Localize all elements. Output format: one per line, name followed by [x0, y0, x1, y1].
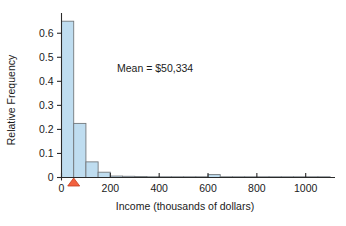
marker-layer	[68, 178, 80, 186]
y-axis-tick-label: 0.1	[39, 147, 54, 159]
mean-triangle-marker	[68, 178, 80, 186]
x-axis-tick-label: 600	[199, 182, 217, 194]
y-axis-tick-label: 0.2	[39, 123, 54, 135]
histogram-bar	[62, 21, 74, 177]
mean-annotation-label: Mean = $50,334	[117, 62, 193, 74]
histogram-bar	[98, 172, 110, 177]
y-axis-tick-label: 0.5	[39, 51, 54, 63]
y-axis-title: Relative Frequency	[5, 54, 17, 145]
x-axis-tick-label: 800	[248, 182, 266, 194]
y-axis-tick-label: 0.4	[39, 75, 54, 87]
x-axis-tick-label: 0	[59, 182, 65, 194]
x-axis-tick-label: 1000	[294, 182, 318, 194]
y-axis-tick-label: 0.6	[39, 27, 54, 39]
income-histogram-chart: 0200400600800100000.10.20.30.40.50.6 Rel…	[0, 0, 346, 226]
axis-layer	[57, 13, 335, 181]
y-axis-tick-label: 0.3	[39, 99, 54, 111]
histogram-bar	[74, 123, 86, 177]
bars-layer	[62, 21, 331, 177]
chart-canvas: 0200400600800100000.10.20.30.40.50.6 Rel…	[0, 0, 346, 226]
x-axis-tick-label: 200	[102, 182, 120, 194]
histogram-bar	[86, 162, 98, 178]
x-axis-title: Income (thousands of dollars)	[116, 200, 254, 212]
x-axis-tick-label: 400	[150, 182, 168, 194]
y-axis-tick-label: 0	[48, 171, 54, 183]
